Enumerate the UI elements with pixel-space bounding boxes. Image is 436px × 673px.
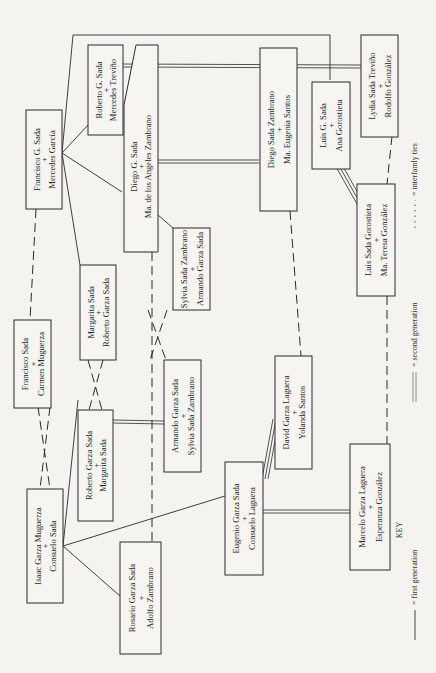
interfamily-tie (30, 209, 36, 320)
interfamily-tie (88, 360, 102, 410)
couple-box-armando-garza-sada: Armando Garza Sada+Sylvia Sada Zambrano (164, 360, 201, 472)
interfamily-tie (38, 407, 50, 489)
couple-box-sylvia-sada-zambrano: Sylvia Sada Zambrano+Armando Garza Sada (173, 228, 210, 310)
first-gen-line (62, 153, 80, 265)
spouse-name: Ma. de los Angeles Zambrano (143, 115, 153, 218)
couple-box-luis-g-sada: Luis G. Sada+Ana Gorostieta (312, 82, 350, 169)
first-gen-line (62, 153, 122, 192)
couple-box-marcelo-garza-laguera: Marcelo Garza Laguera+Esperanza González (350, 444, 390, 570)
couple-box-roberto-garza-sada: Roberto Garza Sada+Margarita Sada (78, 410, 113, 521)
spouse-name: Mercedes García (47, 130, 57, 189)
legend-second-generation: = second generation (410, 303, 419, 368)
couple-box-rosario-garza-sada: Rosario Garza Sada+Adolfo Zambrano (120, 542, 161, 654)
couple-boxes: Francisco G. Sada+Mercedes GarcíaRoberto… (14, 35, 398, 654)
couple-box-francisco-sada: Francisco Sada+Carmen Muguerza (14, 320, 51, 408)
couple-box-isaac-garza-muguerza: Isaac Garza Muguerza+Consuelo Sada (27, 489, 63, 603)
second-gen-line (263, 510, 350, 513)
first-gen-line (62, 125, 88, 153)
legend-first-generation: = first generation (410, 550, 419, 605)
legend-title: KEY (395, 522, 404, 539)
couple-box-diego-sada-zambrano: Diego Sada Zambrano+Ma. Eugenia Santos (260, 48, 297, 211)
couple-box-francisco-g-sada: Francisco G. Sada+Mercedes García (26, 110, 62, 209)
spouse-name: Ma. Teresa González (379, 204, 389, 277)
couple-box-margarita-sada: Margarita Sada+Roberto Garza Sada (80, 265, 116, 360)
spouse-name: Roberto Garza Sada (101, 278, 111, 347)
spouse-name: Consuelo Laguera (247, 487, 257, 550)
couple-box-luis-sada-gorostieta: Luis Sada Gorostieta+Ma. Teresa González (357, 184, 395, 296)
spouse-name: Sylvia Sada Zambrano (186, 377, 196, 455)
spouse-name: Esperanza González (374, 472, 384, 542)
couple-box-diego-g-sada: Diego G. Sada+Ma. de los Angeles Zambran… (124, 45, 158, 252)
couple-box-lydia-sada-trevino: Lydia Sada Treviño+Rodolfo González (361, 35, 398, 137)
second-gen-line (113, 420, 164, 424)
legend-interfamily-ties: = interfamly ties (410, 143, 419, 196)
interfamily-tie (290, 211, 301, 356)
spouse-name: Adolfo Zambrano (145, 567, 155, 629)
interfamily-tie (387, 136, 392, 184)
legend: KEY = first generation = second generati… (395, 143, 419, 640)
spouse-name: Ma. Eugenia Santos (282, 94, 292, 164)
spouse-name: Rodolfo González (383, 54, 393, 117)
interfamily-tie (89, 360, 103, 410)
couple-box-roberto-g-sada: Roberto G. Sada+Mercedes Treviño (88, 45, 123, 135)
spouse-name: Armando Garza Sada (195, 232, 205, 306)
spouse-name: Ana Gorostieta (334, 99, 344, 151)
interfamily-tie (150, 310, 167, 360)
first-gen-line (158, 215, 173, 228)
spouse-name: Margarita Sada (98, 439, 108, 492)
first-gen-line (63, 546, 120, 596)
spouse-name: Yolanda Santos (297, 385, 307, 439)
spouse-name: Carmen Muguerza (36, 332, 46, 396)
spouse-name: Consuelo Sada (48, 520, 58, 572)
family-ties-diagram: Francisco G. Sada+Mercedes GarcíaRoberto… (0, 0, 436, 673)
spouse-name: Mercedes Treviño (108, 59, 118, 121)
couple-box-eugenio-garza-sada: Eugenio Garza Sada+Consuelo Laguera (225, 462, 263, 575)
interfamily-tie (148, 310, 166, 360)
first-gen-line (63, 400, 78, 546)
couple-box-david-garza-laguera: David Garza Laguera+Yolanda Santos (275, 356, 312, 469)
second-gen-line (156, 160, 259, 163)
second-gen-line (123, 64, 361, 68)
